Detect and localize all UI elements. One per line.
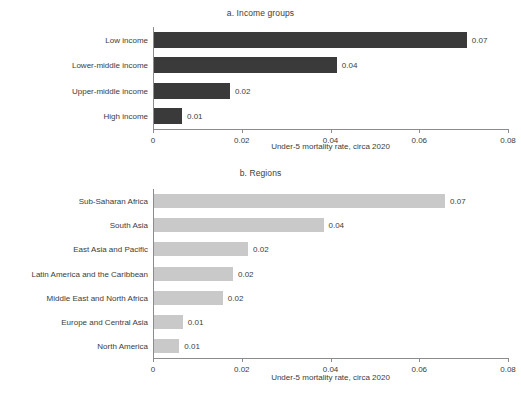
bar-value-label: 0.01 (183, 317, 204, 326)
bar-row[interactable]: 0.04 (153, 218, 508, 232)
bar[interactable] (154, 57, 337, 73)
bar-value-label: 0.02 (223, 293, 244, 302)
bar[interactable] (154, 242, 248, 256)
chart-panel-income-groups: a. Income groups Low incomeLower-middle … (0, 0, 521, 160)
bar-value-label: 0.04 (337, 61, 358, 70)
bar[interactable] (154, 218, 324, 232)
bar-value-label: 0.02 (230, 86, 251, 95)
x-axis-tick (419, 358, 420, 362)
category-label: Sub-Saharan Africa (0, 197, 153, 206)
bar-row[interactable]: 0.01 (153, 339, 508, 353)
panel-b-plot-area: 00.020.040.060.080.070.040.020.020.020.0… (153, 189, 508, 358)
bar[interactable] (154, 339, 179, 353)
x-axis-tick (508, 358, 509, 362)
category-label: South Asia (0, 221, 153, 230)
bar[interactable] (154, 194, 445, 208)
bar-row[interactable]: 0.07 (153, 194, 508, 208)
x-axis-tick (153, 129, 154, 133)
bar-row[interactable]: 0.02 (153, 83, 508, 99)
panel-a-plot-area: 00.020.040.060.080.070.040.020.01 (153, 27, 508, 129)
panel-a-category-labels: Low incomeLower-middle incomeUpper-middl… (0, 27, 153, 129)
bar-row[interactable]: 0.02 (153, 291, 508, 305)
bar-value-label: 0.01 (182, 112, 203, 121)
bar-value-label: 0.01 (179, 341, 200, 350)
bar[interactable] (154, 108, 182, 124)
bar-value-label: 0.02 (248, 245, 269, 254)
panel-b-x-axis-title: Under-5 mortality rate, circa 2020 (153, 373, 508, 382)
bar-row[interactable]: 0.04 (153, 57, 508, 73)
panel-a-title: a. Income groups (0, 8, 521, 18)
category-label: Middle East and North Africa (0, 293, 153, 302)
category-label: North America (0, 341, 153, 350)
category-label: Europe and Central Asia (0, 317, 153, 326)
x-axis-tick (419, 129, 420, 133)
bar[interactable] (154, 83, 230, 99)
bar[interactable] (154, 315, 183, 329)
panel-b-category-labels: Sub-Saharan AfricaSouth AsiaEast Asia an… (0, 189, 153, 358)
bar-row[interactable]: 0.02 (153, 267, 508, 281)
x-axis-tick (331, 129, 332, 133)
x-axis-tick (331, 358, 332, 362)
x-axis-tick (508, 129, 509, 133)
category-label: Latin America and the Caribbean (0, 269, 153, 278)
bar[interactable] (154, 291, 223, 305)
category-label: East Asia and Pacific (0, 245, 153, 254)
bar[interactable] (154, 267, 233, 281)
bar-value-label: 0.04 (324, 221, 345, 230)
panel-a-x-axis-title: Under-5 mortality rate, circa 2020 (153, 142, 508, 151)
bar-row[interactable]: 0.01 (153, 315, 508, 329)
bar-row[interactable]: 0.07 (153, 32, 508, 48)
category-label: High income (0, 112, 153, 121)
bar-row[interactable]: 0.02 (153, 242, 508, 256)
x-axis-tick (242, 129, 243, 133)
bar-row[interactable]: 0.01 (153, 108, 508, 124)
bar[interactable] (154, 32, 467, 48)
category-label: Upper-middle income (0, 86, 153, 95)
bar-value-label: 0.02 (233, 269, 254, 278)
x-axis-tick (242, 358, 243, 362)
panel-b-title: b. Regions (0, 168, 521, 178)
bar-value-label: 0.07 (445, 197, 466, 206)
category-label: Low income (0, 35, 153, 44)
x-axis-tick (153, 358, 154, 362)
bar-value-label: 0.07 (467, 35, 488, 44)
category-label: Lower-middle income (0, 61, 153, 70)
